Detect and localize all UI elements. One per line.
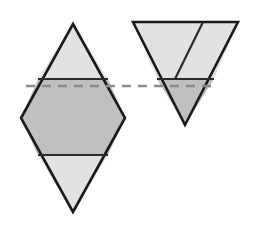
right-inverted-triangle: [133, 22, 238, 125]
left-bottom-triangle: [38, 155, 108, 212]
figure-canvas: [0, 0, 253, 233]
geometry-diagram: [0, 0, 253, 233]
left-composite-rhombus: [21, 24, 125, 212]
